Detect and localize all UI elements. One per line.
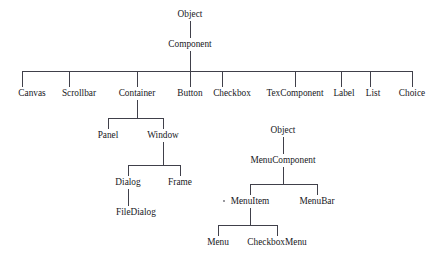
node-object-top: Object [178, 9, 203, 19]
node-list: List [366, 88, 381, 98]
node-canvas: Canvas [18, 88, 46, 98]
node-component: Component [168, 39, 212, 49]
node-button: Button [177, 88, 203, 98]
node-menuitem: MenuItem [231, 196, 270, 206]
node-menucomponent: MenuComponent [250, 155, 315, 165]
tree-canvas: Object Component Canvas Scrollbar Contai… [0, 0, 440, 267]
class-hierarchy-diagram: Object Component Canvas Scrollbar Contai… [0, 0, 440, 267]
node-label: Label [333, 88, 355, 98]
node-scrollbar: Scrollbar [62, 88, 97, 98]
stray-speck-mark [223, 200, 225, 202]
node-menu: Menu [207, 237, 229, 247]
node-checkbox: Checkbox [213, 88, 251, 98]
node-panel: Panel [98, 130, 119, 140]
node-texcomponent: TexComponent [266, 88, 324, 98]
edge-layer [22, 21, 412, 236]
node-choice: Choice [399, 88, 425, 98]
node-frame: Frame [168, 177, 192, 187]
node-checkboxmenu: CheckboxMenu [247, 237, 307, 247]
node-dialog: Dialog [115, 177, 141, 187]
label-layer: Object Component Canvas Scrollbar Contai… [18, 9, 425, 247]
node-object-menu: Object [271, 125, 296, 135]
speck-layer [223, 200, 225, 202]
node-menubar: MenuBar [299, 196, 335, 206]
node-container: Container [119, 88, 157, 98]
node-filedialog: FileDialog [116, 207, 156, 217]
node-window: Window [147, 130, 179, 140]
